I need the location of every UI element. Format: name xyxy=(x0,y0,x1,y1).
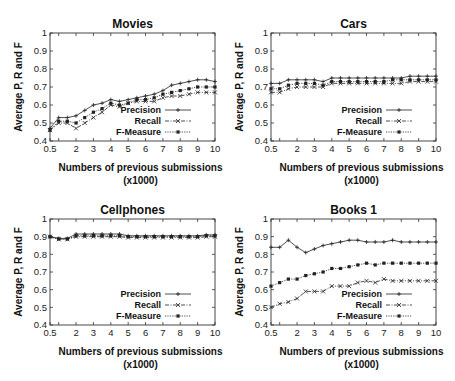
data-point xyxy=(373,240,377,244)
data-point xyxy=(417,262,420,265)
x-tick-label: 2 xyxy=(294,143,299,154)
y-tick-label: 0.8 xyxy=(34,63,47,74)
data-point xyxy=(213,234,216,237)
data-point xyxy=(135,235,138,238)
x-tick-label: 9 xyxy=(416,143,421,154)
y-tick-label: 0.6 xyxy=(255,284,268,295)
x-tick-label: 10 xyxy=(210,327,221,338)
legend-label: Recall xyxy=(134,300,161,310)
x-tick-label: 6 xyxy=(143,327,148,338)
y-tick-label: 0.9 xyxy=(34,231,47,242)
legend-label: Precision xyxy=(120,289,161,299)
y-axis-label: Average P, R and F xyxy=(13,42,24,131)
data-point xyxy=(74,234,77,237)
data-point xyxy=(425,240,429,244)
data-point xyxy=(365,279,369,283)
data-point xyxy=(408,78,411,81)
legend-label: F-Measure xyxy=(116,127,161,137)
data-point xyxy=(92,234,95,237)
data-point xyxy=(330,242,334,246)
data-point xyxy=(109,102,112,105)
legend-marker xyxy=(176,314,179,317)
series-f-measure xyxy=(269,262,437,288)
legend-label: F-Measure xyxy=(337,311,382,321)
data-point xyxy=(426,78,429,81)
data-point xyxy=(213,80,217,84)
data-point xyxy=(278,87,281,90)
data-point xyxy=(118,103,121,106)
data-point xyxy=(313,272,316,275)
y-tick-label: 0.6 xyxy=(255,99,268,110)
y-axis-label: Average P, R and F xyxy=(234,42,245,131)
data-point xyxy=(83,121,87,125)
x-tick-label: 10 xyxy=(431,327,442,338)
data-point xyxy=(365,76,369,80)
data-point xyxy=(304,251,308,255)
data-point xyxy=(295,82,298,85)
data-point xyxy=(117,99,121,103)
data-point xyxy=(400,262,403,265)
x-tick-label: 5 xyxy=(347,327,352,338)
data-point xyxy=(382,76,386,80)
x-tick-label: 7 xyxy=(381,327,386,338)
data-point xyxy=(179,89,182,92)
data-point xyxy=(356,76,360,80)
chart-grid: Movies0.40.50.60.70.80.910.52345678910Nu… xyxy=(0,0,455,381)
data-point xyxy=(338,76,342,80)
data-point xyxy=(135,98,138,101)
x-tick-label: 6 xyxy=(143,143,148,154)
data-point xyxy=(339,80,342,83)
x-tick-label: 7 xyxy=(160,143,165,154)
legend-marker xyxy=(176,292,180,296)
data-point xyxy=(408,74,412,78)
data-point xyxy=(295,297,299,301)
data-point xyxy=(100,101,104,105)
chart-cars: Cars0.40.50.60.70.80.910.52345678910Numb… xyxy=(234,17,444,186)
x-tick-label: 0.5 xyxy=(264,327,277,338)
data-point xyxy=(187,235,190,238)
data-point xyxy=(400,78,403,81)
x-tick-label: 3 xyxy=(91,143,96,154)
y-tick-label: 0.8 xyxy=(255,63,268,74)
y-tick-label: 0.7 xyxy=(255,81,268,92)
data-point xyxy=(322,84,325,87)
data-point xyxy=(178,81,182,85)
data-point xyxy=(391,262,394,265)
data-point xyxy=(170,235,173,238)
x-axis-label: Numbers of previous submissions xyxy=(280,162,444,173)
data-point xyxy=(196,85,199,88)
x-tick-label: 6 xyxy=(364,143,369,154)
data-point xyxy=(313,82,316,85)
x-tick-label: 3 xyxy=(312,327,317,338)
data-point xyxy=(153,96,156,99)
data-point xyxy=(152,92,156,96)
data-point xyxy=(269,245,273,249)
y-tick-label: 0.5 xyxy=(255,117,268,128)
data-point xyxy=(187,87,190,90)
legend-marker xyxy=(397,130,400,133)
data-point xyxy=(269,285,272,288)
data-point xyxy=(356,238,360,242)
legend-label: F-Measure xyxy=(116,311,161,321)
data-point xyxy=(74,114,78,118)
y-axis-label: Average P, R and F xyxy=(234,227,245,316)
data-point xyxy=(330,80,333,83)
x-tick-label: 0.5 xyxy=(264,143,277,154)
data-point xyxy=(170,91,173,94)
y-tick-label: 0.9 xyxy=(255,45,268,56)
x-tick-label: 0.5 xyxy=(43,327,56,338)
y-tick-label: 0.7 xyxy=(34,266,47,277)
x-tick-label: 3 xyxy=(312,143,317,154)
data-point xyxy=(347,76,351,80)
legend-label: F-Measure xyxy=(337,127,382,137)
x-axis-unit: (x1000) xyxy=(123,359,157,370)
data-point xyxy=(295,277,298,280)
data-point xyxy=(144,235,147,238)
data-point xyxy=(321,244,325,248)
data-point xyxy=(434,262,437,265)
data-point xyxy=(213,85,216,88)
data-point xyxy=(348,80,351,83)
data-point xyxy=(391,238,395,242)
data-point xyxy=(269,81,273,85)
chart-books-1: Books 10.40.50.60.70.80.910.52345678910N… xyxy=(234,203,444,370)
